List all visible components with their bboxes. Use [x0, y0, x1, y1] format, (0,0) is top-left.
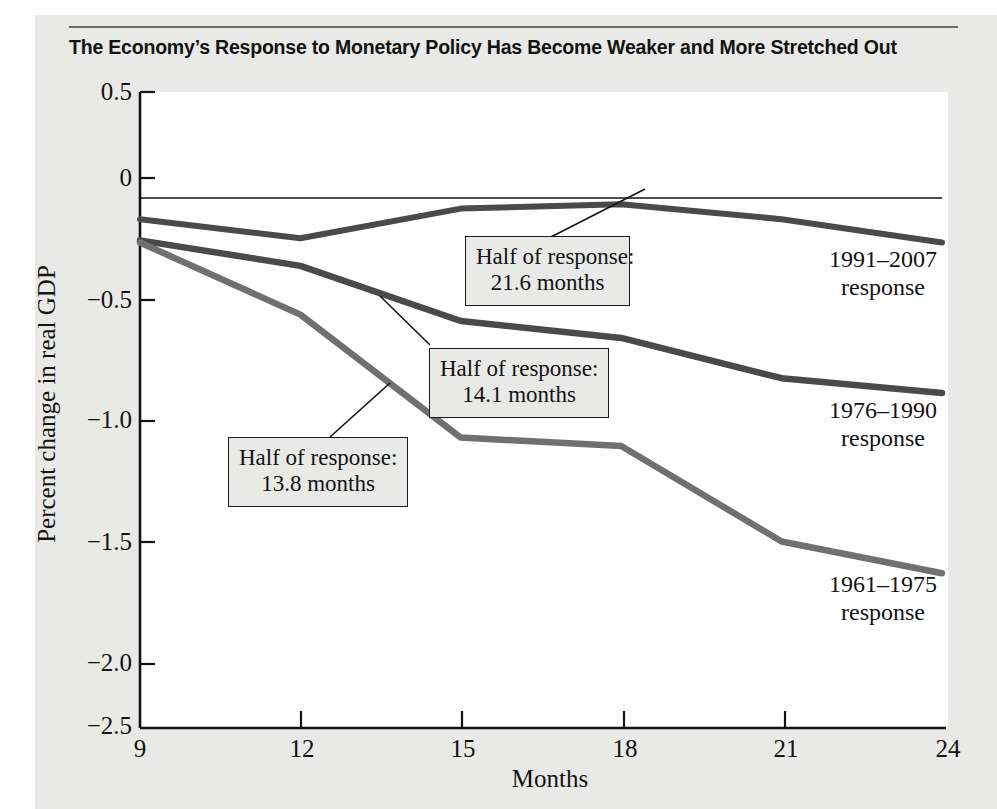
callout-line-1: Half of response: [476, 244, 619, 270]
series-label-line-2: response [798, 424, 968, 452]
callout-line-2: 21.6 months [476, 270, 619, 296]
series-label-line-1: 1991–2007 [798, 245, 968, 273]
series-label-1991-2007: 1991–2007 response [798, 245, 968, 302]
callout-line-2: 13.8 months [239, 471, 397, 497]
series-label-line-1: 1976–1990 [798, 396, 968, 424]
series-label-line-2: response [798, 598, 968, 626]
figure-page: The Economy’s Response to Monetary Polic… [0, 0, 997, 809]
y-tick-marks [140, 92, 155, 664]
x-tick-marks [301, 711, 785, 728]
series-label-1961-1975: 1961–1975 response [798, 570, 968, 627]
callout-line-1: Half of response: [440, 356, 598, 382]
callout-line-2: 14.1 months [440, 382, 598, 408]
callout-half-response-14-1: Half of response: 14.1 months [429, 348, 609, 418]
callout-line-1: Half of response: [239, 445, 397, 471]
leader-line-21-6 [545, 189, 645, 240]
series-label-line-1: 1961–1975 [798, 570, 968, 598]
callout-half-response-13-8: Half of response: 13.8 months [228, 437, 408, 507]
series-label-1976-1990: 1976–1990 response [798, 396, 968, 453]
leader-line-13-8 [330, 383, 390, 437]
series-label-line-2: response [798, 273, 968, 301]
callout-half-response-21-6: Half of response: 21.6 months [465, 236, 630, 306]
